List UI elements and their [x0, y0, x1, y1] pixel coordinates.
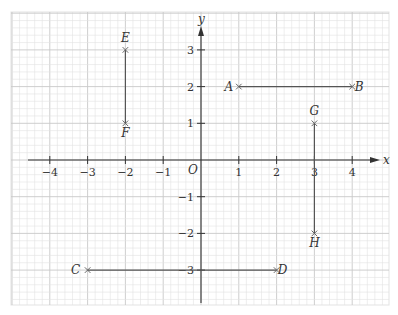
grid	[11, 12, 389, 305]
x-tick-label: −1	[155, 166, 171, 179]
point-label: C	[71, 263, 80, 277]
coordinate-plane: xyO −4−3−2−11234321−1−2−3 ABCDEFGH	[0, 0, 398, 315]
points: ABCDEFGH	[71, 31, 364, 277]
x-tick-label: 4	[349, 166, 356, 179]
axes: xyO	[28, 12, 390, 303]
origin-label: O	[188, 163, 198, 177]
y-tick-label: 1	[187, 117, 194, 130]
point-label: D	[277, 263, 288, 277]
point-label: E	[120, 31, 130, 45]
point-E: E	[120, 31, 130, 53]
point-label: B	[354, 80, 364, 94]
x-axis-label: x	[383, 153, 390, 167]
point-G: G	[310, 104, 320, 126]
x-tick-label: −3	[79, 166, 95, 179]
y-axis-arrow-icon	[198, 26, 204, 36]
y-tick-label: 3	[187, 44, 194, 57]
point-D: D	[274, 263, 288, 277]
point-label: F	[120, 126, 130, 140]
x-tick-label: −4	[42, 166, 58, 179]
point-label: G	[310, 104, 320, 118]
x-tick-label: −2	[117, 166, 133, 179]
point-label: H	[308, 236, 320, 250]
y-tick-label: −1	[178, 191, 194, 204]
grid-border	[11, 12, 389, 305]
x-tick-label: 1	[235, 166, 242, 179]
x-tick-label: 2	[273, 166, 280, 179]
y-tick-label: −2	[178, 227, 194, 240]
y-tick-label: 2	[187, 81, 194, 94]
point-label: A	[223, 80, 233, 94]
point-B: B	[349, 80, 363, 94]
y-axis-label: y	[197, 12, 205, 26]
